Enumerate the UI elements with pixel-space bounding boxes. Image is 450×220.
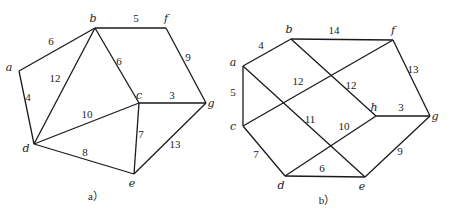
vertex-label-e: e bbox=[359, 180, 366, 193]
vertex-label-g: g bbox=[431, 110, 438, 123]
edge-a-d bbox=[19, 71, 34, 144]
graph-figure: 65126934107813abfcgdea） 4141351212311107… bbox=[0, 0, 450, 220]
vertex-label-b: b bbox=[89, 12, 96, 25]
edge-weight-e-g: 13 bbox=[170, 138, 182, 150]
vertex-label-c: c bbox=[136, 89, 142, 102]
vertex-label-e: e bbox=[129, 177, 136, 190]
edge-weight-b-c: 6 bbox=[116, 55, 122, 67]
edge-weight-d-c: 10 bbox=[82, 108, 94, 120]
vertex-label-g: g bbox=[207, 97, 214, 110]
edge-weight-a-d: 4 bbox=[25, 91, 31, 103]
edge-c-d bbox=[243, 126, 285, 176]
edge-weight-e-g: 9 bbox=[397, 145, 403, 157]
edge-d-e bbox=[285, 176, 365, 177]
subfigure-caption-b: b） bbox=[319, 194, 336, 206]
vertex-label-a: a bbox=[6, 61, 13, 74]
edge-weight-c-e: 7 bbox=[138, 128, 144, 140]
edge-weight-c-f: 12 bbox=[293, 75, 304, 87]
graph-b: 414135121231110769abfchgdeb） bbox=[230, 23, 439, 206]
edge-d-h bbox=[285, 116, 376, 176]
edge-weight-a-b: 4 bbox=[258, 39, 264, 51]
edge-weight-d-h: 10 bbox=[339, 120, 351, 132]
edge-weight-h-g: 3 bbox=[398, 101, 404, 113]
vertex-label-d: d bbox=[22, 142, 29, 155]
edge-weight-a-e: 11 bbox=[305, 113, 316, 125]
vertex-label-b: b bbox=[285, 23, 292, 36]
subfigure-caption-a: a） bbox=[88, 190, 104, 202]
edge-b-h bbox=[291, 39, 376, 116]
edge-weight-c-g: 3 bbox=[169, 89, 175, 101]
edge-weight-b-f: 14 bbox=[329, 24, 341, 36]
cutoff-caption-text: 图… bbox=[4, 216, 450, 220]
edge-weight-f-g: 9 bbox=[185, 51, 191, 63]
vertex-label-f: f bbox=[163, 12, 170, 25]
vertex-label-c: c bbox=[230, 120, 236, 133]
edge-a-b bbox=[243, 39, 291, 66]
edge-weight-c-d: 7 bbox=[253, 148, 259, 160]
graph-a: 65126934107813abfcgdea） bbox=[6, 12, 215, 202]
edge-weight-d-e: 8 bbox=[82, 146, 88, 158]
edge-weight-b-f: 5 bbox=[133, 12, 139, 24]
vertex-label-d: d bbox=[277, 179, 284, 192]
vertex-label-f: f bbox=[390, 24, 397, 37]
cutoff-caption-line: 图… bbox=[0, 212, 450, 220]
edge-weight-b-h: 12 bbox=[346, 79, 357, 91]
edge-weight-d-e: 6 bbox=[319, 162, 325, 174]
edge-b-f bbox=[291, 39, 393, 40]
vertex-label-h: h bbox=[370, 101, 377, 114]
edge-weight-a-b: 6 bbox=[48, 35, 54, 47]
edge-weight-b-d: 12 bbox=[50, 72, 61, 84]
edge-weight-f-g: 13 bbox=[408, 63, 420, 75]
edge-weight-a-c: 5 bbox=[230, 86, 236, 98]
vertex-label-a: a bbox=[230, 56, 237, 69]
